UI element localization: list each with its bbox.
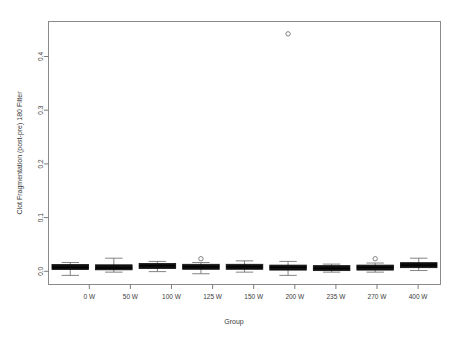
x-tick-label: 270 W	[368, 293, 388, 300]
y-tick-label: 0.3	[37, 105, 44, 114]
x-tick-label: 100 W	[162, 293, 182, 300]
x-tick-label: 125 W	[203, 293, 223, 300]
x-axis-title: Group	[224, 318, 244, 326]
x-tick-label: 50 W	[123, 293, 139, 300]
x-tick-label: 0 W	[84, 293, 96, 300]
figure-background	[0, 0, 459, 342]
plot-canvas: 0.0 0.1 0.2 0.3 0.4 Clot Fragmentation (…	[0, 0, 459, 342]
x-tick-label: 150 W	[244, 293, 264, 300]
y-tick-label: 0.1	[37, 213, 44, 222]
x-tick-label: 235 W	[327, 293, 347, 300]
boxplot-235-w	[313, 264, 350, 272]
y-tick-label: 0.0	[37, 266, 44, 275]
y-tick-label: 0.2	[37, 159, 44, 168]
y-axis-title: Clot Fragmentation (post-pre) 180 Filter	[16, 91, 24, 215]
x-tick-label: 400 W	[409, 293, 429, 300]
boxplot-figure: 0.0 0.1 0.2 0.3 0.4 Clot Fragmentation (…	[0, 0, 459, 342]
y-tick-label: 0.4	[37, 52, 44, 61]
x-tick-label: 200 W	[285, 293, 305, 300]
